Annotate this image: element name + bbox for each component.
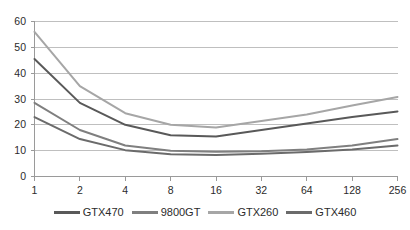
y-axis-tick-label: 10 <box>0 145 26 156</box>
x-axis-tick-label: 8 <box>156 185 186 196</box>
y-axis-tick-label: 40 <box>0 68 26 79</box>
y-axis-tick-label: 0 <box>0 171 26 182</box>
x-axis-ticks <box>35 177 398 181</box>
legend-label: GTX460 <box>315 207 356 218</box>
legend-entry[interactable]: 9800GT <box>132 207 201 218</box>
y-axis-tick-label: 20 <box>0 119 26 130</box>
gridlines <box>35 22 398 177</box>
legend-line-swatch-icon <box>54 211 80 214</box>
legend-label: GTX260 <box>237 207 278 218</box>
legend-line-swatch-icon <box>132 211 158 214</box>
x-axis-tick-label: 256 <box>383 185 410 196</box>
legend-label: 9800GT <box>161 207 201 218</box>
x-axis-tick-label: 16 <box>201 185 231 196</box>
line-chart: 0102030405060 1248163264128256 GTX470980… <box>0 0 410 230</box>
y-axis-tick-label: 60 <box>0 16 26 27</box>
legend-entry[interactable]: GTX460 <box>286 207 356 218</box>
legend-entry[interactable]: GTX260 <box>208 207 278 218</box>
x-axis-tick-label: 1 <box>20 185 50 196</box>
y-axis-tick-label: 30 <box>0 94 26 105</box>
x-axis-tick-label: 64 <box>292 185 322 196</box>
series-lines <box>35 32 398 155</box>
y-axis-tick-label: 50 <box>0 42 26 53</box>
legend-line-swatch-icon <box>286 211 312 214</box>
legend-line-swatch-icon <box>208 211 234 214</box>
x-axis-tick-label: 128 <box>337 185 367 196</box>
x-axis-tick-label: 4 <box>110 185 140 196</box>
axis-lines <box>31 22 35 177</box>
x-axis-tick-label: 32 <box>246 185 276 196</box>
chart-legend: GTX4709800GTGTX260GTX460 <box>0 203 410 221</box>
legend-label: GTX470 <box>83 207 124 218</box>
plot-area <box>0 0 410 230</box>
legend-entry[interactable]: GTX470 <box>54 207 124 218</box>
series-line-gtx260 <box>35 32 398 128</box>
x-axis-tick-label: 2 <box>65 185 95 196</box>
